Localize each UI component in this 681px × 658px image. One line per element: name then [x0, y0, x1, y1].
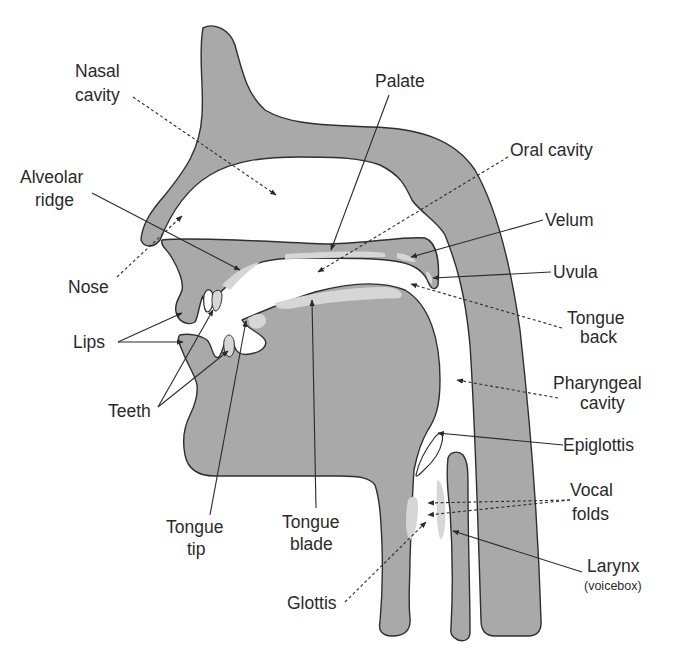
svg-text:Alveolar: Alveolar	[20, 167, 83, 187]
palate-leader	[331, 95, 389, 250]
label-nasal-cavity: Nasal cavity	[75, 61, 120, 105]
label-teeth: Teeth	[108, 401, 151, 421]
svg-text:Glottis: Glottis	[287, 593, 337, 613]
label-tongue-tip: Tongue tip	[166, 517, 223, 559]
svg-text:Nose: Nose	[68, 277, 109, 297]
label-tongue-blade: Tongue blade	[282, 512, 339, 554]
tongue-jaw	[178, 284, 440, 636]
label-nose: Nose	[68, 277, 109, 297]
label-palate: Palate	[375, 71, 425, 91]
svg-text:Lips: Lips	[73, 332, 105, 352]
svg-text:Pharyngeal: Pharyngeal	[553, 373, 642, 393]
label-epiglottis: Epiglottis	[563, 435, 634, 455]
label-alveolar-ridge: Alveolar ridge	[20, 167, 83, 210]
svg-text:Velum: Velum	[545, 210, 594, 230]
svg-text:Palate: Palate	[375, 71, 425, 91]
label-uvula: Uvula	[553, 262, 598, 282]
label-pharyngeal-cavity: Pharyngeal cavity	[553, 373, 642, 413]
svg-text:Larynx: Larynx	[587, 556, 640, 576]
svg-text:Nasal: Nasal	[75, 61, 120, 81]
svg-text:Oral cavity: Oral cavity	[510, 140, 593, 160]
svg-text:Tongue: Tongue	[282, 512, 339, 532]
svg-text:Teeth: Teeth	[108, 401, 151, 421]
label-velum: Velum	[545, 210, 594, 230]
larynx-column	[447, 452, 470, 641]
lips-leader-upper	[118, 313, 182, 342]
svg-text:Uvula: Uvula	[553, 262, 598, 282]
label-larynx: Larynx (voicebox)	[584, 556, 642, 593]
svg-text:Vocal: Vocal	[570, 480, 613, 500]
vocal-fold-highlight-right	[437, 480, 446, 540]
vocal-tract-diagram: Nasal cavity Palate Oral cavity Alveolar…	[0, 0, 681, 658]
svg-text:(voicebox): (voicebox)	[584, 579, 642, 593]
svg-text:Tongue: Tongue	[567, 308, 624, 328]
label-glottis: Glottis	[287, 593, 337, 613]
svg-text:folds: folds	[572, 504, 609, 524]
label-oral-cavity: Oral cavity	[510, 140, 593, 160]
svg-text:Epiglottis: Epiglottis	[563, 435, 634, 455]
svg-text:back: back	[580, 327, 617, 347]
svg-text:cavity: cavity	[75, 85, 120, 105]
svg-text:Tongue: Tongue	[166, 517, 223, 537]
upper-incisor	[212, 290, 222, 311]
svg-text:blade: blade	[290, 534, 333, 554]
svg-text:tip: tip	[187, 539, 205, 559]
label-tongue-back: Tongue back	[567, 308, 624, 347]
vocal-fold-highlight-left	[406, 497, 418, 540]
svg-text:cavity: cavity	[580, 393, 625, 413]
label-vocal-folds: Vocal folds	[570, 480, 613, 524]
label-lips: Lips	[73, 332, 105, 352]
svg-text:ridge: ridge	[35, 190, 74, 210]
